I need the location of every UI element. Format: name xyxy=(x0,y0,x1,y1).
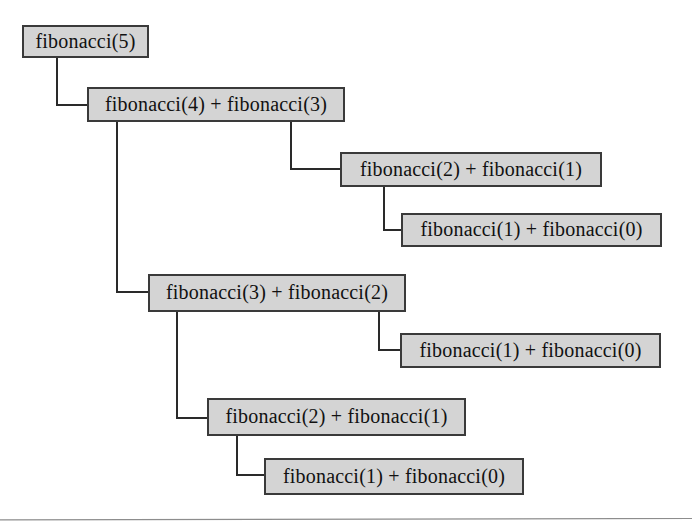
tree-node-n6: fibonacci(2) + fibonacci(1) xyxy=(207,398,466,436)
recursion-tree-diagram: fibonacci(5)fibonacci(4) + fibonacci(3)f… xyxy=(0,0,692,529)
tree-node-n3: fibonacci(1) + fibonacci(0) xyxy=(401,213,662,247)
tree-node-label: fibonacci(2) + fibonacci(1) xyxy=(219,406,453,426)
connector-n0-to-n1 xyxy=(57,58,87,105)
tree-node-n2: fibonacci(2) + fibonacci(1) xyxy=(340,152,602,187)
tree-node-n0: fibonacci(5) xyxy=(22,25,149,58)
tree-node-label: fibonacci(1) + fibonacci(0) xyxy=(413,340,647,360)
tree-node-n1: fibonacci(4) + fibonacci(3) xyxy=(87,87,345,122)
bottom-divider xyxy=(0,518,692,521)
connector-n4-to-n5 xyxy=(379,312,400,350)
tree-node-label: fibonacci(2) + fibonacci(1) xyxy=(354,159,588,179)
connector-n1-to-n2 xyxy=(291,122,340,169)
connector-n6-to-n7 xyxy=(237,436,264,475)
tree-node-n7: fibonacci(1) + fibonacci(0) xyxy=(264,458,524,495)
connector-lines xyxy=(0,0,692,529)
tree-node-label: fibonacci(4) + fibonacci(3) xyxy=(99,94,333,114)
tree-node-label: fibonacci(1) + fibonacci(0) xyxy=(414,219,648,239)
divider-line xyxy=(0,518,692,520)
tree-node-n4: fibonacci(3) + fibonacci(2) xyxy=(148,274,406,312)
tree-node-label: fibonacci(5) xyxy=(29,31,141,51)
tree-node-label: fibonacci(3) + fibonacci(2) xyxy=(160,282,394,302)
tree-node-n5: fibonacci(1) + fibonacci(0) xyxy=(400,333,661,368)
connector-n4-to-n6 xyxy=(177,312,207,418)
connector-n1-to-n4 xyxy=(117,122,148,292)
connector-n2-to-n3 xyxy=(384,187,401,230)
tree-node-label: fibonacci(1) + fibonacci(0) xyxy=(277,466,511,486)
